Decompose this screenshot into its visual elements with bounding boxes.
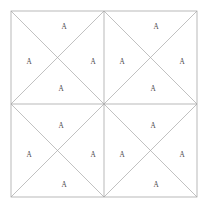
label-top-left-top: A	[61, 23, 67, 31]
tiling-diagram: A A A A A A A A A A A A A A A A	[0, 0, 207, 208]
label-top-right-bottom: A	[150, 85, 156, 93]
label-top-left-left: A	[26, 58, 32, 66]
label-top-left-right: A	[90, 58, 96, 66]
label-top-right-right: A	[179, 58, 185, 66]
figure-canvas: A A A A A A A A A A A A A A A A	[0, 0, 207, 208]
label-bottom-right-bottom: A	[153, 181, 159, 189]
label-top-left-bottom: A	[58, 85, 64, 93]
label-top-right-top: A	[153, 23, 159, 31]
label-bottom-left-right: A	[90, 151, 96, 159]
label-bottom-right-left: A	[119, 151, 125, 159]
label-bottom-right-top: A	[150, 122, 156, 130]
label-bottom-left-bottom: A	[61, 181, 67, 189]
label-bottom-left-left: A	[26, 151, 32, 159]
label-bottom-right-right: A	[179, 151, 185, 159]
label-top-right-left: A	[119, 58, 125, 66]
label-bottom-left-top: A	[58, 122, 64, 130]
